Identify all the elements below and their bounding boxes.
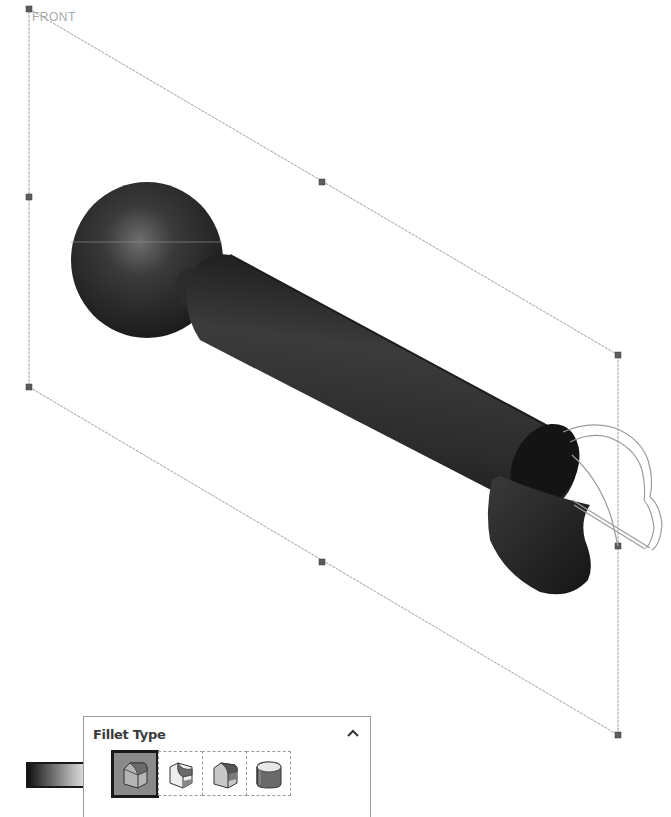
constant-size-fillet-button[interactable] xyxy=(111,750,159,798)
panel-title: Fillet Type xyxy=(93,727,165,742)
constant-size-fillet-icon xyxy=(118,757,152,791)
fillet-type-options xyxy=(112,751,291,798)
chevron-up-icon xyxy=(344,725,362,743)
plane-handle[interactable] xyxy=(615,352,621,358)
variable-size-fillet-icon xyxy=(164,757,198,791)
face-fillet-button[interactable] xyxy=(202,751,247,796)
full-round-fillet-icon xyxy=(252,757,286,791)
plane-handle[interactable] xyxy=(319,179,325,185)
collapse-button[interactable] xyxy=(344,725,362,743)
fillet-surface[interactable] xyxy=(488,476,591,594)
fillet-type-panel: Fillet Type xyxy=(83,716,371,817)
plane-handle[interactable] xyxy=(26,194,32,200)
full-round-fillet-button[interactable] xyxy=(246,751,291,796)
variable-size-fillet-button[interactable] xyxy=(158,751,203,796)
plane-handle[interactable] xyxy=(615,732,621,738)
plane-handle[interactable] xyxy=(26,384,32,390)
view-orientation-label: FRONT xyxy=(32,10,76,24)
face-fillet-icon xyxy=(208,757,242,791)
plane-handle[interactable] xyxy=(319,559,325,565)
